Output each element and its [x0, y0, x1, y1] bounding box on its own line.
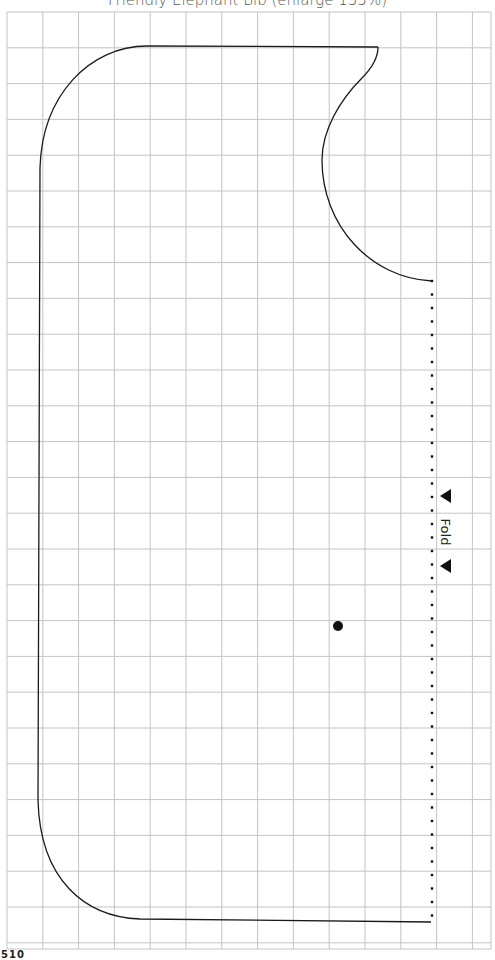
page-number: 510 [1, 949, 25, 960]
fold-line [431, 280, 433, 917]
fold-label: Fold [430, 489, 460, 575]
center-marker-dot [333, 621, 343, 631]
grid [7, 12, 491, 949]
fold-text: Fold [438, 519, 453, 546]
neck-curve [322, 47, 432, 281]
left-triangle-icon [440, 559, 451, 573]
bib-outline [38, 46, 431, 922]
left-triangle-icon [440, 489, 451, 503]
